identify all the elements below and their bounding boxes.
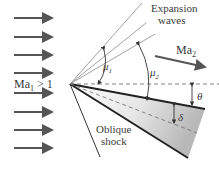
expansion-waves-label-2: waves (158, 14, 186, 26)
ma2-flow-arrow (155, 56, 205, 67)
delta-label: δ (178, 111, 184, 123)
theta-label: θ (197, 90, 203, 102)
diagram-canvas: Expansion waves Ma2 Ma1 > 1 μ1 μ2 θ δ Ob… (0, 0, 219, 170)
expansion-waves (70, 3, 155, 84)
ma1-label: Ma1 > 1 (14, 77, 53, 93)
mu2-arc (139, 45, 149, 100)
wedge-flow-diagram: Expansion waves Ma2 Ma1 > 1 μ1 μ2 θ δ Ob… (0, 0, 219, 170)
wedge (70, 84, 205, 158)
expansion-waves-label-1: Expansion (151, 2, 198, 14)
ma2-label: Ma2 (176, 43, 196, 59)
mu2-label: μ2 (149, 66, 160, 81)
oblique-shock-label-2: shock (101, 135, 127, 147)
oblique-shock-label-1: Oblique (96, 123, 132, 135)
